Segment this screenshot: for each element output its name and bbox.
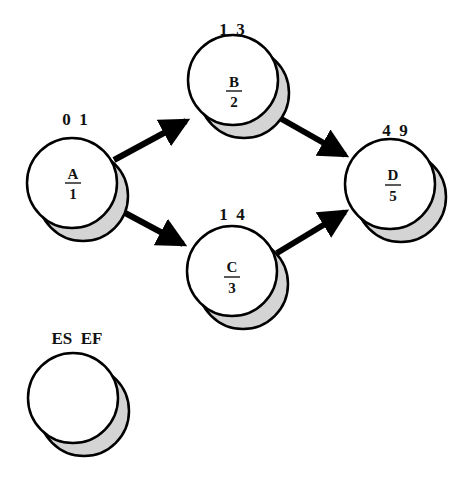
- node-a-es-ef: 0 1: [62, 110, 88, 129]
- node-b-name: B: [229, 74, 239, 90]
- node-b-es-ef: 1 3: [219, 20, 245, 39]
- node-d-duration: 5: [389, 188, 397, 204]
- legend-node: ES EF: [28, 329, 129, 456]
- edge-a-to-b: [114, 121, 186, 160]
- edge-b-to-d: [278, 117, 345, 155]
- node-a-name: A: [68, 166, 79, 182]
- node-c-es-ef: 1 4: [219, 205, 245, 224]
- node-d-name: D: [388, 167, 399, 183]
- network-diagram: 0 1 A 1 1 3 B 2 1 4 C 3 4 9 D 5 ES EF: [0, 0, 476, 487]
- node-a: 0 1 A 1: [27, 110, 128, 241]
- node-c-name: C: [227, 259, 238, 275]
- edge-c-to-d: [277, 212, 345, 253]
- node-d-es-ef: 4 9: [382, 121, 408, 140]
- node-c: 1 4 C 3: [187, 205, 288, 329]
- node-d: 4 9 D 5: [345, 121, 446, 242]
- node-circle: [28, 353, 118, 443]
- node-circle: [345, 139, 435, 229]
- node-b-duration: 2: [230, 94, 238, 110]
- node-a-duration: 1: [69, 186, 77, 202]
- node-b: 1 3 B 2: [188, 20, 289, 138]
- node-c-duration: 3: [228, 280, 236, 296]
- legend-es-ef-label: ES EF: [51, 329, 102, 348]
